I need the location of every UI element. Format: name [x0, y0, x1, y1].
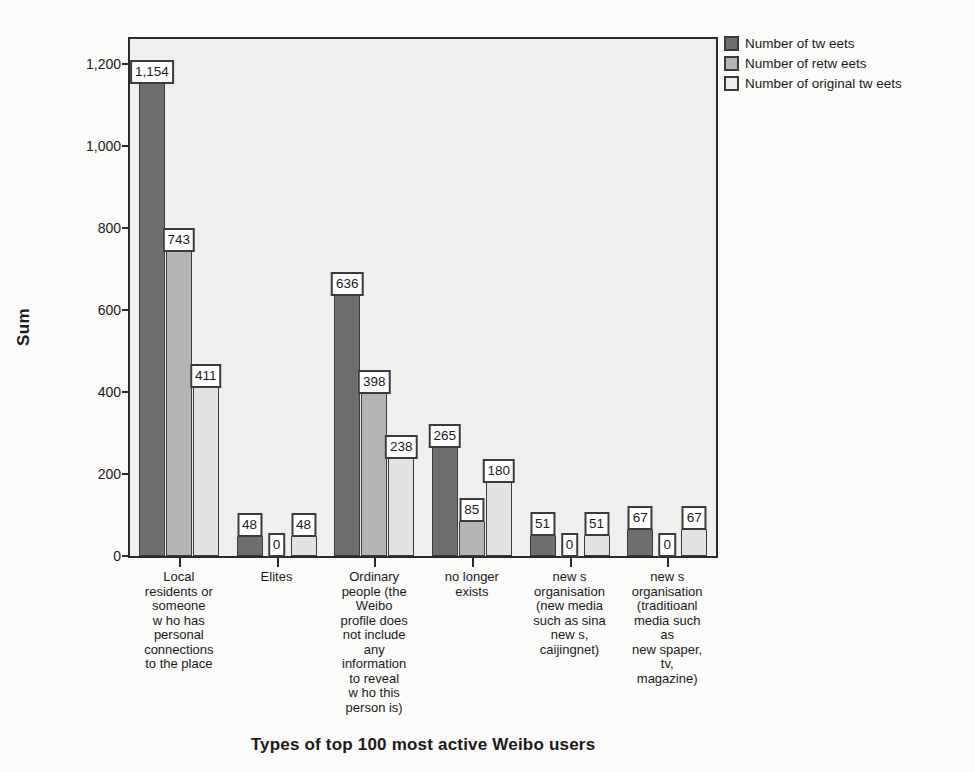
- x-axis-tick-mark: [179, 558, 181, 567]
- bar-value-label: 180: [483, 459, 516, 483]
- bar[interactable]: [334, 295, 360, 556]
- y-axis-title: Sum: [14, 108, 36, 228]
- bar[interactable]: [291, 536, 317, 556]
- plot-area: 02004006008001,0001,2001,154743411480486…: [128, 37, 718, 558]
- bar-value-label: 0: [268, 533, 286, 557]
- legend-label: Number of tw eets: [745, 36, 855, 51]
- bar-value-label: 51: [584, 512, 609, 536]
- bar-value-label: 51: [530, 512, 555, 536]
- plot-inner: 02004006008001,0001,2001,154743411480486…: [130, 39, 716, 556]
- bar-value-label: 0: [561, 533, 579, 557]
- bar-value-label: 411: [190, 364, 222, 388]
- legend-swatch-icon: [724, 36, 739, 51]
- legend-item[interactable]: Number of tw eets: [724, 36, 902, 51]
- bar[interactable]: [166, 251, 192, 556]
- bar-value-label: 67: [682, 506, 707, 530]
- legend-item[interactable]: Number of retw eets: [724, 56, 902, 71]
- bar[interactable]: [530, 535, 556, 556]
- legend-swatch-icon: [724, 76, 739, 91]
- bar-value-label: 67: [628, 506, 653, 530]
- x-axis-tick-mark: [374, 558, 376, 567]
- bar[interactable]: [388, 458, 414, 556]
- legend-label: Number of original tw eets: [745, 76, 902, 91]
- bar[interactable]: [237, 536, 263, 556]
- x-axis-tick-mark: [472, 558, 474, 567]
- bar-value-label: 398: [358, 370, 391, 394]
- y-axis-tick-mark: [122, 555, 130, 557]
- bar-value-label: 1,154: [130, 60, 174, 84]
- bar[interactable]: [432, 447, 458, 556]
- bar-value-label: 743: [163, 228, 196, 252]
- bar[interactable]: [361, 393, 387, 556]
- x-axis-category-label: Local residents or someone w ho has pers…: [123, 570, 235, 672]
- y-axis-tick-mark: [122, 473, 130, 475]
- bar-chart-figure: Sum 02004006008001,0001,2001,15474341148…: [0, 0, 975, 772]
- bar[interactable]: [486, 482, 512, 556]
- bar-value-label: 636: [331, 272, 364, 296]
- y-axis-title-text: Sum: [14, 308, 34, 346]
- x-axis-tick-mark: [570, 558, 572, 567]
- legend-item[interactable]: Number of original tw eets: [724, 76, 902, 91]
- x-axis-category-label: new s organisation (traditioanl media su…: [611, 570, 723, 686]
- bar[interactable]: [459, 521, 485, 556]
- y-axis-tick-mark: [122, 227, 130, 229]
- bar-value-label: 85: [459, 498, 484, 522]
- x-axis-category-label: new s organisation (new media such as si…: [514, 570, 626, 657]
- x-axis-category-label: Ordinary people (the Weibo profile does …: [318, 570, 430, 715]
- bar-value-label: 265: [429, 424, 462, 448]
- legend-swatch-icon: [724, 56, 739, 71]
- x-axis-title: Types of top 100 most active Weibo users: [128, 735, 718, 755]
- y-axis-tick-mark: [122, 391, 130, 393]
- y-axis-tick-mark: [122, 145, 130, 147]
- bar-value-label: 48: [237, 513, 262, 537]
- y-axis-tick-mark: [122, 63, 130, 65]
- x-axis-category-label: no longer exists: [416, 570, 528, 599]
- bar[interactable]: [139, 83, 165, 557]
- bar-value-label: 48: [291, 513, 316, 537]
- bar[interactable]: [681, 529, 707, 556]
- y-axis-tick-mark: [122, 309, 130, 311]
- legend-label: Number of retw eets: [745, 56, 867, 71]
- x-axis-category-label: Elites: [221, 570, 333, 585]
- bar-value-label: 0: [658, 533, 676, 557]
- bar[interactable]: [193, 387, 219, 556]
- x-axis-tick-mark: [667, 558, 669, 567]
- bar-value-label: 238: [385, 435, 418, 459]
- bar[interactable]: [627, 529, 653, 556]
- bar[interactable]: [584, 535, 610, 556]
- x-axis-tick-mark: [277, 558, 279, 567]
- chart-legend: Number of tw eets Number of retw eets Nu…: [724, 36, 902, 96]
